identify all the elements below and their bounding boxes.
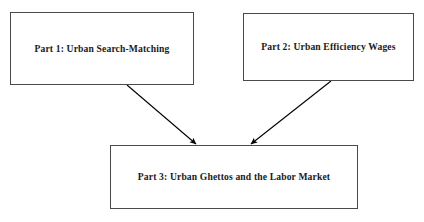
diagram-node-part2: Part 2: Urban Efficiency Wages [243,13,414,81]
diagram-node-part3-label: Part 3: Urban Ghettos and the Labor Mark… [138,172,330,182]
diagram-node-part1-label: Part 1: Urban Search-Matching [34,44,169,54]
diagram-canvas: Part 1: Urban Search-Matching Part 2: Ur… [0,0,424,222]
arrow-part2-to-part3 [251,81,331,144]
arrow-part1-to-part3 [127,85,196,144]
diagram-node-part1: Part 1: Urban Search-Matching [10,12,194,85]
diagram-node-part3: Part 3: Urban Ghettos and the Labor Mark… [110,145,358,209]
diagram-node-part2-label: Part 2: Urban Efficiency Wages [261,42,395,52]
